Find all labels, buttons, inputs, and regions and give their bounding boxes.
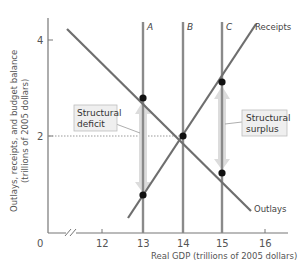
receipts-line <box>128 24 256 218</box>
x-tick-label-15: 15 <box>216 238 229 249</box>
surplus-label-line2: surplus <box>246 124 279 134</box>
y-axis-title-line1: Outlays, receipts, and budget balance <box>9 50 19 212</box>
vertical-line-a-label: A <box>146 22 153 32</box>
point-a-receipts <box>139 191 146 198</box>
surplus-leader <box>225 122 242 124</box>
y-axis-title-line2: (trillions of 2005 dollars) <box>20 79 30 183</box>
axis-break-icon <box>65 227 76 237</box>
vertical-line-b-label: B <box>187 22 193 32</box>
y-tick-label-2: 2 <box>37 131 43 142</box>
y-tick-label-4: 4 <box>37 35 43 46</box>
receipts-label: Receipts <box>255 22 292 32</box>
deficit-leader <box>116 124 140 133</box>
point-c-outlays <box>218 169 225 176</box>
point-a-outlays <box>139 94 146 101</box>
x-tick-label-13: 13 <box>137 238 150 249</box>
deficit-label-line1: Structural <box>77 108 122 118</box>
surplus-label-line1: Structural <box>246 113 291 123</box>
deficit-label-line2: deficit <box>77 119 105 129</box>
outlays-label: Outlays <box>254 204 287 214</box>
x-axis-title: Real GDP (trillions of 2005 dollars) <box>151 251 297 261</box>
vertical-line-c-label: C <box>226 22 233 32</box>
x-tick-label-0: 0 <box>37 238 43 249</box>
x-tick-label-16: 16 <box>259 238 272 249</box>
x-tick-label-12: 12 <box>96 238 109 249</box>
x-tick-label-14: 14 <box>177 238 190 249</box>
point-b-balanced <box>179 132 186 139</box>
chart-canvas: Structural deficit Structural surplus A … <box>0 0 307 271</box>
point-c-receipts <box>218 78 225 85</box>
